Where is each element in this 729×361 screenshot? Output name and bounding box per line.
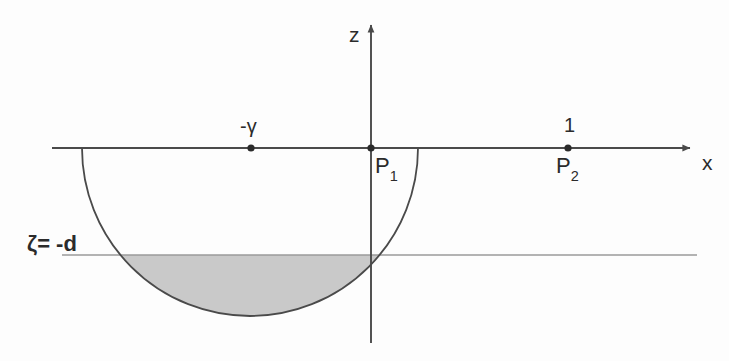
depth-line-label: ζ= -d bbox=[27, 233, 77, 255]
point-label-p2: P2 bbox=[556, 155, 579, 181]
point-marker-p2 bbox=[564, 144, 571, 151]
tick-label-negative-gamma: -γ bbox=[240, 116, 257, 136]
point-label-p2-subscript: 2 bbox=[571, 168, 579, 184]
diagram-svg bbox=[0, 0, 729, 361]
x-axis-label: x bbox=[702, 152, 713, 173]
point-label-p1-subscript: 1 bbox=[390, 168, 398, 184]
point-marker-p1 bbox=[367, 144, 374, 151]
tick-label-one: 1 bbox=[564, 115, 575, 135]
point-label-p2-base: P bbox=[556, 153, 571, 178]
point-label-p1: P1 bbox=[375, 155, 398, 181]
point-marker-gamma bbox=[247, 144, 254, 151]
figure-canvas: z x P1 P2 -γ 1 ζ= -d bbox=[0, 0, 729, 361]
point-label-p1-base: P bbox=[375, 153, 390, 178]
z-axis-label: z bbox=[349, 24, 360, 45]
